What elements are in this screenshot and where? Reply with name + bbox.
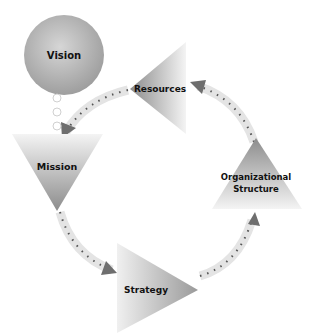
arrow-strategy-to-org <box>200 212 260 276</box>
org-label-line2: Structure <box>233 184 279 194</box>
node-strategy: Strategy <box>117 243 198 333</box>
node-mission: Mission <box>12 134 103 211</box>
arrow-mission-to-strategy <box>60 212 117 275</box>
strategy-label: Strategy <box>124 285 168 295</box>
cycle-diagram: Vision Resources Mission Strategy Organi… <box>0 0 312 334</box>
arrow-resources-to-mission <box>61 90 128 138</box>
resources-label: Resources <box>134 84 186 94</box>
vision-mission-connector <box>53 94 61 130</box>
org-label-line1: Organizational <box>221 172 291 182</box>
connector-dot-icon <box>53 108 61 116</box>
arrowhead-icon <box>248 212 260 226</box>
mission-label: Mission <box>37 161 78 172</box>
arrow-org-to-resources <box>190 80 254 142</box>
mission-triangle <box>12 134 103 211</box>
node-vision: Vision <box>24 15 104 95</box>
connector-dot-icon <box>53 94 61 102</box>
vision-label: Vision <box>47 50 81 61</box>
connector-dot-icon <box>53 122 61 130</box>
node-organizational-structure: Organizational Structure <box>212 138 302 209</box>
node-resources: Resources <box>130 42 186 134</box>
